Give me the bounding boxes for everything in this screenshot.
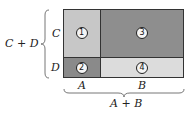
horizontal-divider <box>63 57 184 58</box>
left-brace-label: C + D <box>5 38 38 49</box>
left-brace-icon <box>40 9 50 79</box>
row-label-D: D <box>51 62 60 73</box>
vertical-divider <box>100 9 101 78</box>
rectangle-frame <box>63 9 184 78</box>
bottom-brace-label: A + B <box>110 98 142 109</box>
row-label-C: C <box>52 28 60 39</box>
